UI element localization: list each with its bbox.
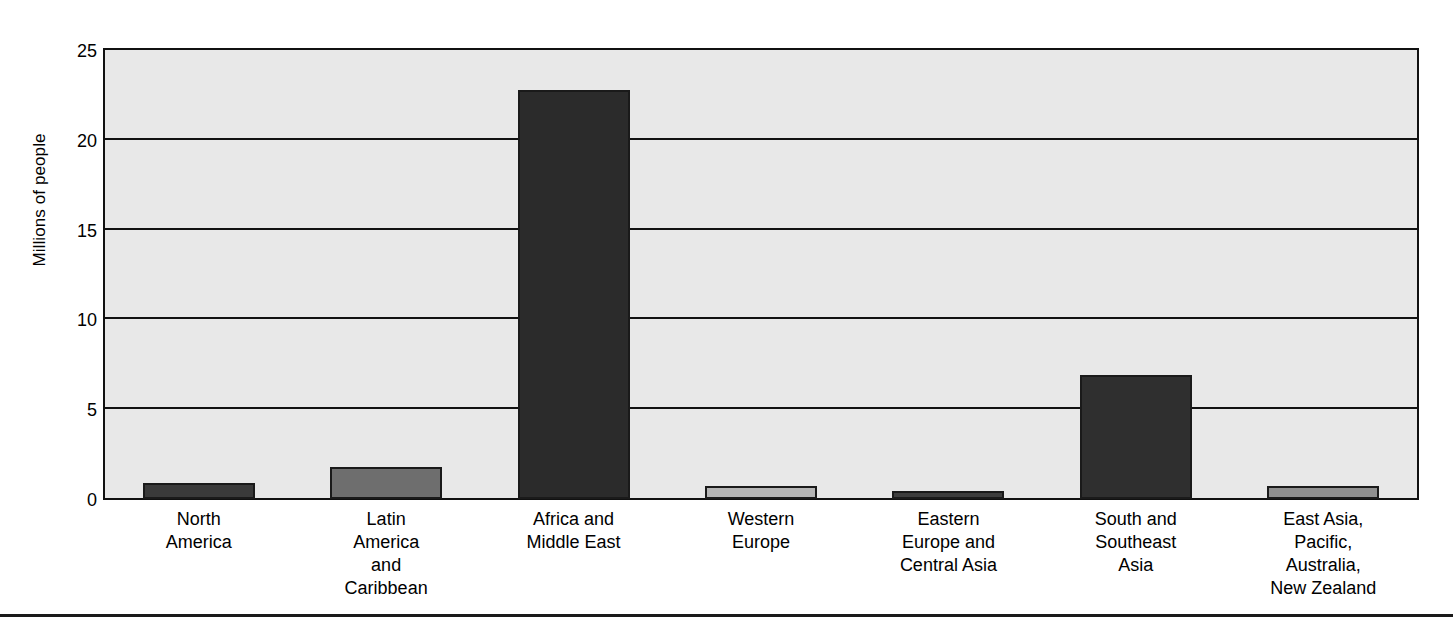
x-category-label-line: Australia, [1230,554,1417,577]
x-category-label-line: Southeast [1042,531,1229,554]
x-category-label-line: East Asia, [1230,508,1417,531]
x-category-label-line: Asia [1042,554,1229,577]
x-category-label-line: Europe [667,531,854,554]
bar[interactable] [330,467,442,499]
x-category-label: LatinAmericaandCaribbean [292,508,479,600]
y-tick-label-0: 0 [51,491,97,509]
bar-slot [1042,50,1229,499]
bar-slot [855,50,1042,499]
x-category-label-line: North [105,508,292,531]
y-tick-label-10: 10 [51,311,97,329]
x-axis-category-labels: NorthAmericaLatinAmericaandCaribbeanAfri… [105,508,1417,618]
bar-slot [105,50,292,499]
bar-slot [292,50,479,499]
bar[interactable] [1267,486,1379,499]
x-category-label-line: Middle East [480,531,667,554]
x-category-label-line: New Zealand [1230,577,1417,600]
bar-slot [667,50,854,499]
x-category-label-line: Africa and [480,508,667,531]
x-category-label-line: America [292,531,479,554]
bottom-rule [0,614,1453,617]
bar[interactable] [892,491,1004,499]
x-category-label-line: Pacific, [1230,531,1417,554]
y-tick-label-5: 5 [51,401,97,419]
bar-slot [480,50,667,499]
x-category-label: WesternEurope [667,508,854,554]
x-category-label-line: America [105,531,292,554]
x-category-label-line: Europe and [855,531,1042,554]
y-axis-tick-labels: 0510152025 [47,48,97,500]
bar[interactable] [705,486,817,499]
bar-slot [1230,50,1417,499]
bar[interactable] [518,90,630,499]
x-category-label-line: Caribbean [292,577,479,600]
x-category-label: Africa andMiddle East [480,508,667,554]
x-category-label-line: Western [667,508,854,531]
x-category-label-line: Eastern [855,508,1042,531]
x-category-label: East Asia,Pacific,Australia,New Zealand [1230,508,1417,600]
bar[interactable] [1080,375,1192,499]
y-tick-label-20: 20 [51,132,97,150]
x-category-label: NorthAmerica [105,508,292,554]
x-category-label-line: and [292,554,479,577]
bar[interactable] [143,483,255,499]
x-category-label: EasternEurope andCentral Asia [855,508,1042,577]
bar-chart-figure: Millions of people 0510152025 NorthAmeri… [0,0,1453,632]
bars-layer [105,50,1417,499]
x-category-label-line: Central Asia [855,554,1042,577]
x-category-label-line: South and [1042,508,1229,531]
x-category-label-line: Latin [292,508,479,531]
y-tick-label-15: 15 [51,222,97,240]
x-category-label: South andSoutheastAsia [1042,508,1229,577]
y-tick-label-25: 25 [51,42,97,60]
